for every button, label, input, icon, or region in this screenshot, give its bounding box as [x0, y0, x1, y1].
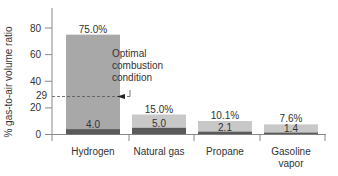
bar-group-propane: 10.1%2.1: [198, 110, 252, 134]
lower-value-label: 4.0: [86, 119, 100, 130]
y-ticks: 02029406080: [30, 23, 52, 141]
y-tick-label: 40: [30, 76, 42, 87]
upper-value-label: 75.0%: [79, 24, 107, 35]
category-label: Hydrogen: [71, 146, 114, 157]
y-axis-label: % gas-to-air volume ratio: [3, 26, 14, 138]
x-ticks: [129, 135, 325, 142]
annotation-text: Optimalcombustioncondition: [112, 48, 163, 83]
category-label: vapor: [278, 158, 304, 169]
category-label: Gasoline: [271, 146, 311, 157]
y-tick-label: 60: [30, 49, 42, 60]
y-tick-label: 20: [30, 102, 42, 113]
lower-value-label: 5.0: [152, 118, 166, 129]
y-tick-label: 80: [30, 23, 42, 34]
category-label: Natural gas: [133, 146, 184, 157]
category-labels: HydrogenNatural gasPropaneGasolinevapor: [71, 146, 311, 169]
upper-value-label: 15.0%: [145, 104, 173, 115]
bar-chart: % gas-to-air volume ratio 02029406080 75…: [0, 0, 338, 176]
lower-value-label: 2.1: [218, 122, 232, 133]
y-tick-label: 29: [36, 90, 48, 101]
bar-group-gasoline-vapor: 7.6%1.4: [264, 113, 318, 134]
upper-value-label: 10.1%: [211, 110, 239, 121]
category-label: Propane: [206, 146, 244, 157]
y-tick-label: 0: [35, 129, 41, 140]
bars: 75.0%4.015.0%5.010.1%2.17.6%1.4: [66, 24, 318, 135]
lower-value-label: 1.4: [284, 123, 298, 134]
bar-group-natural-gas: 15.0%5.0: [132, 104, 186, 135]
